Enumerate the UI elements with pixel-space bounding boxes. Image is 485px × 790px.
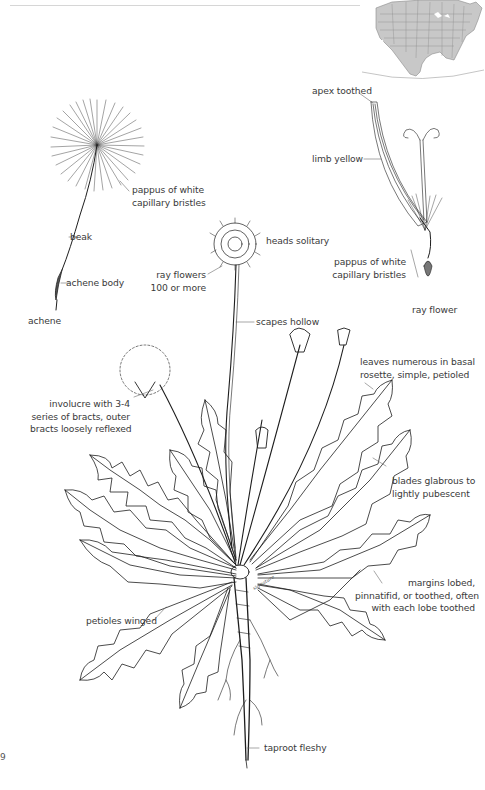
label-achene-body: achene body: [66, 277, 124, 290]
flower-head-drawing: [210, 218, 260, 548]
page-number-fragment: 9: [0, 752, 6, 762]
label-involucre: involucre with 3-4 series of bracts, out…: [30, 398, 130, 436]
label-scapes-hollow: scapes hollow: [256, 316, 319, 329]
label-taproot-fleshy: taproot fleshy: [264, 742, 327, 755]
label-leaves-line1: leaves numerous in basal: [360, 356, 468, 369]
label-margins-line1: margins lobed,: [355, 577, 475, 590]
label-margins-line3: with each lobe toothed: [355, 602, 475, 615]
label-blades-line2: lightly pubescent: [392, 488, 475, 501]
ray-flower-drawing: [371, 102, 442, 276]
label-pappus-ray-line1: pappus of white: [330, 256, 406, 269]
label-achene: achene: [28, 315, 61, 328]
label-margins-line2: pinnatifid, or toothed, often: [355, 590, 475, 603]
label-ray-flowers-line1: ray flowers: [148, 269, 206, 282]
label-ray-flower: ray flower: [412, 304, 457, 317]
label-petioles-winged: petioles winged: [86, 615, 157, 628]
label-involucre-line3: bracts loosely reflexed: [30, 423, 130, 436]
label-heads-solitary: heads solitary: [266, 235, 329, 248]
label-pappus-seed: pappus of white capillary bristles: [132, 184, 206, 209]
label-leaves: leaves numerous in basal rosette, simple…: [360, 356, 468, 381]
label-pappus-ray: pappus of white capillary bristles: [330, 256, 406, 281]
label-beak: beak: [70, 231, 92, 244]
label-ray-flowers-line2: 100 or more: [148, 282, 206, 295]
illustration-page: signature apex toothed limb yellow: [0, 0, 485, 790]
label-margins: margins lobed, pinnatifid, or toothed, o…: [355, 577, 475, 615]
label-involucre-line1: involucre with 3-4: [30, 398, 130, 411]
label-pappus-ray-line2: capillary bristles: [330, 269, 406, 282]
taproot-drawing: [218, 565, 278, 768]
label-limb-yellow: limb yellow: [312, 153, 363, 166]
label-ray-flowers: ray flowers 100 or more: [148, 269, 206, 294]
label-involucre-line2: series of bracts, outer: [30, 411, 130, 424]
rosette-leaves-drawing: [65, 328, 430, 708]
label-blades: blades glabrous to lightly pubescent: [392, 475, 475, 500]
label-leaves-line2: rosette, simple, petioled: [360, 369, 468, 382]
label-blades-line1: blades glabrous to: [392, 475, 475, 488]
label-pappus-seed-line2: capillary bristles: [132, 197, 206, 210]
svg-text:signature: signature: [252, 574, 276, 592]
label-pappus-seed-line1: pappus of white: [132, 184, 206, 197]
dandelion-drawing: signature: [0, 0, 485, 790]
label-apex-toothed: apex toothed: [312, 85, 372, 98]
